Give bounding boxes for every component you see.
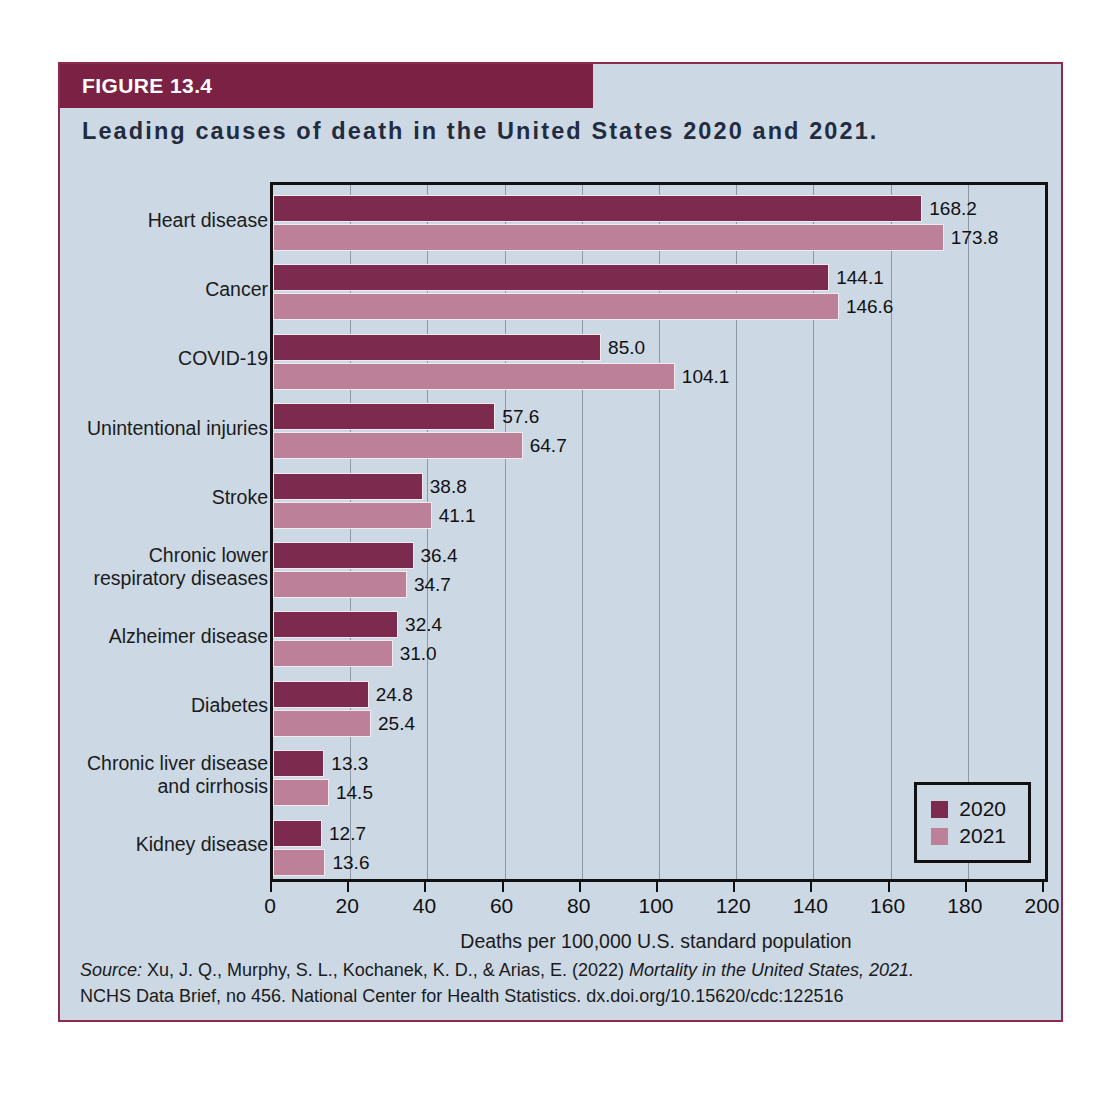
x-tick-label: 80 xyxy=(567,894,590,918)
category-label: Kidney disease xyxy=(60,833,268,856)
bar-2020 xyxy=(273,473,423,500)
legend-item-2021: 2021 xyxy=(931,824,1006,848)
bar-value-label: 41.1 xyxy=(439,502,476,529)
legend-swatch-2020-icon xyxy=(931,801,948,818)
y-axis-category-labels: Heart diseaseCancerCOVID-19Unintentional… xyxy=(60,182,268,876)
legend-swatch-2021-icon xyxy=(931,828,948,845)
bar-group: 38.841.1 xyxy=(273,473,1045,529)
bar-2021 xyxy=(273,779,329,806)
legend-item-2020: 2020 xyxy=(931,797,1006,821)
plot-inner: 168.2173.8144.1146.685.0104.157.664.738.… xyxy=(273,185,1045,879)
x-tick-mark xyxy=(810,879,812,892)
bar-value-label: 14.5 xyxy=(336,779,373,806)
x-tick-mark xyxy=(656,879,658,892)
figure-number-label: FIGURE 13.4 xyxy=(82,74,212,98)
bar-2020 xyxy=(273,264,829,291)
source-title-italic: Mortality in the United States, 2021. xyxy=(629,960,914,980)
category-label: Unintentional injuries xyxy=(60,417,268,440)
x-tick-mark xyxy=(1042,879,1044,892)
x-tick-label: 200 xyxy=(1024,894,1059,918)
legend-label-2021: 2021 xyxy=(959,824,1006,848)
bar-2020 xyxy=(273,820,322,847)
bar-2020 xyxy=(273,195,922,222)
bar-value-label: 13.3 xyxy=(331,750,368,777)
bar-2021 xyxy=(273,640,393,667)
bar-value-label: 64.7 xyxy=(530,432,567,459)
bar-value-label: 168.2 xyxy=(929,195,977,222)
chart-legend: 2020 2021 xyxy=(914,782,1031,863)
figure-container: FIGURE 13.4 Leading causes of death in t… xyxy=(58,62,1063,1022)
bar-value-label: 36.4 xyxy=(421,542,458,569)
x-tick-label: 100 xyxy=(638,894,673,918)
bar-2021 xyxy=(273,363,675,390)
chart: Heart diseaseCancerCOVID-19Unintentional… xyxy=(60,168,1061,958)
bar-value-label: 24.8 xyxy=(376,681,413,708)
x-tick-mark xyxy=(888,879,890,892)
bar-value-label: 146.6 xyxy=(846,293,894,320)
category-label: Alzheimer disease xyxy=(60,625,268,648)
x-tick-label: 140 xyxy=(793,894,828,918)
bar-group: 36.434.7 xyxy=(273,542,1045,598)
x-tick-label: 0 xyxy=(264,894,276,918)
bar-group: 168.2173.8 xyxy=(273,195,1045,251)
x-axis-title: Deaths per 100,000 U.S. standard populat… xyxy=(270,930,1042,953)
figure-title: Leading causes of death in the United St… xyxy=(82,118,1032,145)
bar-value-label: 85.0 xyxy=(608,334,645,361)
bar-group: 85.0104.1 xyxy=(273,334,1045,390)
bar-value-label: 32.4 xyxy=(405,611,442,638)
bar-group: 57.664.7 xyxy=(273,403,1045,459)
source-line2: NCHS Data Brief, no 456. National Center… xyxy=(80,986,843,1006)
bar-value-label: 173.8 xyxy=(951,224,999,251)
source-prefix: Source: xyxy=(80,960,142,980)
category-label: Stroke xyxy=(60,486,268,509)
bar-2021 xyxy=(273,293,839,320)
category-label: Cancer xyxy=(60,278,268,301)
bar-value-label: 25.4 xyxy=(378,710,415,737)
bar-2020 xyxy=(273,334,601,361)
x-axis-tick-labels: 020406080100120140160180200 xyxy=(270,894,1042,922)
x-tick-mark xyxy=(965,879,967,892)
x-axis-tick-marks xyxy=(270,879,1042,893)
bar-2020 xyxy=(273,681,369,708)
bar-group: 24.825.4 xyxy=(273,681,1045,737)
bar-2021 xyxy=(273,224,944,251)
x-tick-mark xyxy=(502,879,504,892)
category-label: Heart disease xyxy=(60,209,268,232)
plot-area: 168.2173.8144.1146.685.0104.157.664.738.… xyxy=(270,182,1048,882)
x-tick-mark xyxy=(424,879,426,892)
bar-2020 xyxy=(273,403,495,430)
bar-2021 xyxy=(273,571,407,598)
bar-value-label: 104.1 xyxy=(682,363,730,390)
bar-2021 xyxy=(273,849,325,876)
figure-number-banner: FIGURE 13.4 xyxy=(60,64,593,108)
bar-value-label: 144.1 xyxy=(836,264,884,291)
bar-2021 xyxy=(273,432,523,459)
bar-group: 32.431.0 xyxy=(273,611,1045,667)
bar-2021 xyxy=(273,710,371,737)
bar-2020 xyxy=(273,611,398,638)
x-tick-mark xyxy=(270,879,272,892)
legend-label-2020: 2020 xyxy=(959,797,1006,821)
x-tick-mark xyxy=(347,879,349,892)
category-label: Chronic liver diseaseand cirrhosis xyxy=(60,752,268,798)
source-citation: Xu, J. Q., Murphy, S. L., Kochanek, K. D… xyxy=(142,960,629,980)
bar-group: 144.1146.6 xyxy=(273,264,1045,320)
bar-2021 xyxy=(273,502,432,529)
category-label: COVID-19 xyxy=(60,347,268,370)
x-tick-label: 40 xyxy=(413,894,436,918)
x-tick-mark xyxy=(733,879,735,892)
bar-value-label: 57.6 xyxy=(502,403,539,430)
source-note: Source: Xu, J. Q., Murphy, S. L., Kochan… xyxy=(80,957,1045,1009)
x-tick-label: 180 xyxy=(947,894,982,918)
bar-value-label: 34.7 xyxy=(414,571,451,598)
x-tick-mark xyxy=(579,879,581,892)
bar-2020 xyxy=(273,542,414,569)
category-label: Chronic lowerrespiratory diseases xyxy=(60,544,268,590)
bar-value-label: 38.8 xyxy=(430,473,467,500)
x-tick-label: 60 xyxy=(490,894,513,918)
bar-2020 xyxy=(273,750,324,777)
x-tick-label: 160 xyxy=(870,894,905,918)
bar-value-label: 31.0 xyxy=(400,640,437,667)
bar-value-label: 12.7 xyxy=(329,820,366,847)
x-tick-label: 20 xyxy=(336,894,359,918)
